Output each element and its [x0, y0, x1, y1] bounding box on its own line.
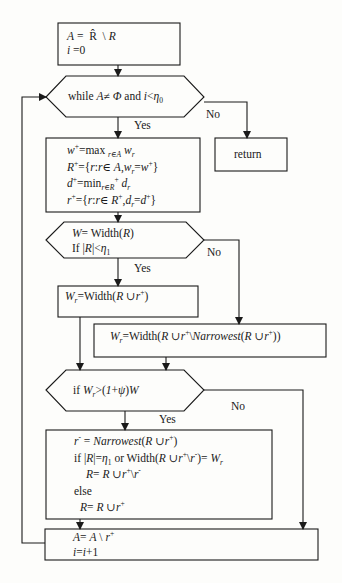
width-yes-label: Yes [134, 262, 151, 274]
compare-text: if Wr>(1+ψ)W [73, 384, 139, 398]
while-condition-text: while A≠ Φ and i<η0 [68, 90, 163, 104]
return-text: return [234, 148, 261, 162]
width-check-text: W= Width(R) If |R|<η1 [72, 226, 134, 256]
while-yes-label: Yes [134, 119, 151, 131]
select-box-text: w+=max r∈A wr R+={r:r∈ A,wr=w+} d+=minr∈… [67, 142, 158, 208]
compare-no-label: No [231, 400, 245, 412]
width-no-label: No [207, 246, 221, 258]
init-box-text: A = R̂ \ R i =0 [67, 30, 116, 57]
while-no-label: No [206, 108, 220, 120]
wr-swap-text: Wr=Width(R ∪r+\Narrowest(R ∪r+)) [110, 330, 281, 344]
compare-yes-label: Yes [159, 413, 176, 425]
increment-box-text: A= A \ r+ i=i+1 [73, 530, 114, 559]
update-box-text: r- = Narrowest(R ∪r+) if |R|=η1 or Width… [74, 433, 223, 516]
wr-add-text: Wr=Width(R ∪r+) [65, 290, 148, 304]
